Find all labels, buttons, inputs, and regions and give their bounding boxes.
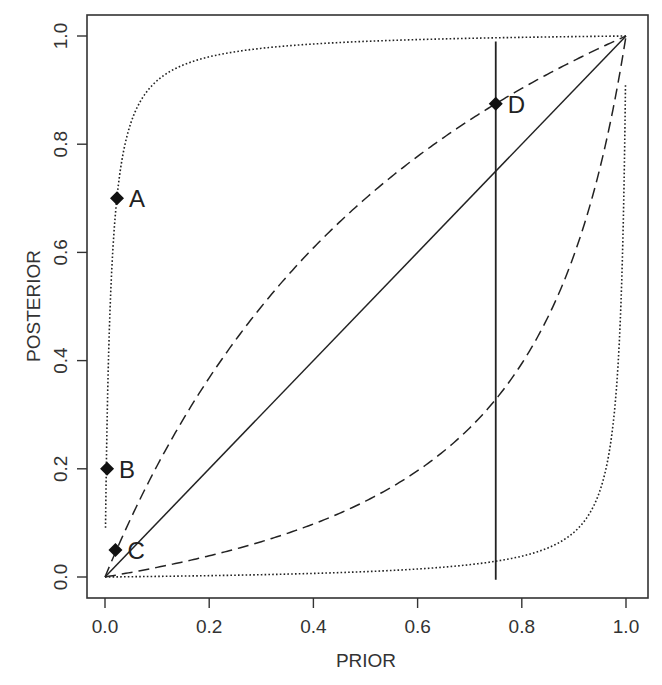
x-tick-label: 1.0 xyxy=(613,616,639,637)
plot-frame xyxy=(87,15,648,598)
points-layer: ABCD xyxy=(100,91,525,564)
x-tick-label: 0.4 xyxy=(300,616,327,637)
bayes-prior-posterior-chart: 0.00.20.40.60.81.0 0.00.20.40.60.81.0 AB… xyxy=(0,0,662,685)
point-label-b: B xyxy=(119,456,135,483)
x-tick-label: 0.6 xyxy=(404,616,430,637)
series-dotted-line xyxy=(105,85,625,577)
x-axis-title: PRIOR xyxy=(336,650,396,671)
x-tick-label: 0.2 xyxy=(196,616,222,637)
series-layer xyxy=(105,36,626,580)
x-axis: 0.00.20.40.60.81.0 xyxy=(92,598,639,637)
series-dotted-line xyxy=(106,36,626,528)
diamond-marker-c xyxy=(108,543,122,557)
y-tick-label: 0.8 xyxy=(50,131,71,157)
point-label-a: A xyxy=(129,185,145,212)
y-tick-label: 0.4 xyxy=(50,347,71,374)
y-tick-label: 0.0 xyxy=(50,564,71,590)
y-tick-label: 1.0 xyxy=(50,23,71,49)
diamond-marker-d xyxy=(489,97,503,111)
x-tick-label: 0.0 xyxy=(92,616,118,637)
x-tick-label: 0.8 xyxy=(509,616,535,637)
y-tick-label: 0.2 xyxy=(50,456,71,482)
y-tick-label: 0.6 xyxy=(50,239,71,265)
diamond-marker-b xyxy=(100,462,114,476)
diamond-marker-a xyxy=(110,191,124,205)
series-solid-line xyxy=(105,36,626,577)
y-axis-title: POSTERIOR xyxy=(23,250,44,362)
point-label-d: D xyxy=(508,91,525,118)
point-label-c: C xyxy=(127,537,144,564)
y-axis: 0.00.20.40.60.81.0 xyxy=(50,23,87,590)
